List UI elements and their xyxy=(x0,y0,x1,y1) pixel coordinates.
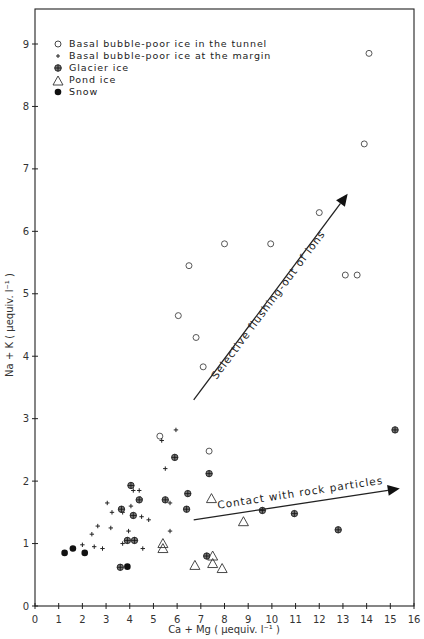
data-point xyxy=(81,550,88,557)
data-point xyxy=(291,510,297,516)
data-point xyxy=(200,364,206,370)
plus-icon xyxy=(47,51,69,61)
data-point xyxy=(259,507,265,513)
data-point xyxy=(174,428,178,432)
data-point xyxy=(157,433,163,439)
data-point xyxy=(130,512,136,518)
data-point xyxy=(206,448,212,454)
data-point xyxy=(139,515,143,519)
annotation-flushing: Selective flushing-out of ions xyxy=(208,228,327,381)
data-point xyxy=(137,488,141,492)
data-point xyxy=(342,272,348,278)
data-point xyxy=(147,518,151,522)
svg-text:1: 1 xyxy=(23,538,29,549)
x-axis-label: Ca + Mg ( μequiv. l⁻¹ ) xyxy=(168,624,280,635)
data-point xyxy=(124,563,131,570)
data-point xyxy=(118,506,124,512)
svg-text:4: 4 xyxy=(23,351,29,362)
data-point xyxy=(80,543,84,547)
svg-text:5: 5 xyxy=(150,614,156,625)
data-point xyxy=(175,313,181,319)
legend-item-margin: Basal bubble-poor ice at the margin xyxy=(47,50,271,62)
svg-text:15: 15 xyxy=(384,614,397,625)
data-point xyxy=(185,490,191,496)
svg-text:2: 2 xyxy=(23,476,29,487)
data-points xyxy=(61,50,398,572)
data-point xyxy=(335,527,341,533)
data-point xyxy=(361,141,367,147)
data-point xyxy=(126,529,130,533)
svg-text:6: 6 xyxy=(23,226,29,237)
data-point xyxy=(61,550,68,557)
data-point xyxy=(110,510,114,514)
triangle-icon xyxy=(47,75,69,86)
data-point xyxy=(206,470,212,476)
legend-item-pond: Pond ice xyxy=(47,74,271,86)
data-point xyxy=(193,334,199,340)
data-point xyxy=(222,241,228,247)
svg-text:0: 0 xyxy=(23,601,29,612)
svg-text:8: 8 xyxy=(23,101,29,112)
svg-text:3: 3 xyxy=(23,413,29,424)
data-point xyxy=(96,524,100,528)
data-point xyxy=(217,564,227,573)
data-point xyxy=(124,537,130,543)
svg-text:16: 16 xyxy=(408,614,421,625)
svg-text:5: 5 xyxy=(23,288,29,299)
svg-text:0: 0 xyxy=(32,614,38,625)
legend-label: Pond ice xyxy=(69,74,116,86)
svg-text:2: 2 xyxy=(79,614,85,625)
legend-label: Basal bubble-poor ice at the margin xyxy=(69,50,271,62)
svg-text:12: 12 xyxy=(313,614,326,625)
legend-label: Basal bubble-poor ice in the tunnel xyxy=(69,38,267,50)
data-point xyxy=(105,501,109,505)
data-point xyxy=(162,497,168,503)
data-point xyxy=(186,263,192,269)
data-point xyxy=(316,210,322,216)
data-point xyxy=(136,497,142,503)
legend-label: Glacier ice xyxy=(69,62,129,74)
legend-item-snow: Snow xyxy=(47,86,271,98)
data-point xyxy=(366,50,372,56)
axis-ticks: 0123456789101112131415160123456789 xyxy=(23,39,421,626)
data-point xyxy=(268,241,274,247)
svg-text:11: 11 xyxy=(289,614,302,625)
data-point xyxy=(70,545,77,552)
data-point xyxy=(172,454,178,460)
annotation-contact: Contact with rock particles xyxy=(216,474,383,511)
data-point xyxy=(92,544,96,548)
data-point xyxy=(129,504,133,508)
data-point xyxy=(128,482,134,488)
svg-text:4: 4 xyxy=(127,614,133,625)
open-circle-icon xyxy=(47,39,69,49)
data-point xyxy=(168,529,172,533)
svg-text:1: 1 xyxy=(56,614,62,625)
data-point xyxy=(109,526,113,530)
data-point xyxy=(163,466,167,470)
data-point xyxy=(141,546,145,550)
svg-text:9: 9 xyxy=(23,39,29,50)
data-point xyxy=(117,564,123,570)
data-point xyxy=(183,506,189,512)
data-point xyxy=(90,532,94,536)
svg-text:3: 3 xyxy=(103,614,109,625)
data-point xyxy=(238,517,248,526)
data-point xyxy=(100,546,104,550)
svg-text:7: 7 xyxy=(23,163,29,174)
data-point xyxy=(354,272,360,278)
legend-label: Snow xyxy=(69,86,98,98)
plot-frame xyxy=(35,9,414,606)
data-point xyxy=(131,537,137,543)
data-point xyxy=(190,560,200,569)
svg-text:14: 14 xyxy=(360,614,373,625)
data-point xyxy=(206,494,216,503)
data-point xyxy=(392,427,398,433)
crossed-circle-icon xyxy=(47,63,69,73)
y-axis-label: Na + K ( μequiv. l⁻¹ ) xyxy=(4,273,15,377)
legend-item-glacier: Glacier ice xyxy=(47,62,271,74)
svg-text:13: 13 xyxy=(337,614,350,625)
filled-circle-icon xyxy=(47,87,69,97)
legend: Basal bubble-poor ice in the tunnel Basa… xyxy=(47,38,271,98)
legend-item-tunnel: Basal bubble-poor ice in the tunnel xyxy=(47,38,271,50)
